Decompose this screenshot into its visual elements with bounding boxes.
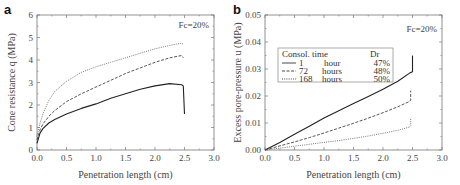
y-tick-label: 0.05	[245, 10, 261, 20]
series-line	[37, 43, 183, 136]
x-tick-label: 2.5	[179, 153, 191, 163]
panel-label: a	[4, 2, 12, 17]
x-tick-label: 2.0	[377, 153, 389, 163]
y-tick-label: 5	[29, 33, 34, 43]
series-line	[37, 84, 185, 144]
x-tick-label: 0.0	[259, 153, 271, 163]
x-tick-label: 1.5	[120, 153, 132, 163]
x-tick-label: 0.5	[289, 153, 301, 163]
x-tick-label: 1.0	[318, 153, 330, 163]
fines-content-annotation: Fc=20%	[178, 20, 209, 30]
plot-frame	[265, 15, 442, 150]
legend-time: 168	[299, 74, 313, 84]
chart-panel-a: 0.00.51.01.52.02.53.00123456Penetration …	[4, 2, 220, 181]
fines-content-annotation: Fc=20%	[406, 24, 437, 34]
y-tick-label: 0.02	[245, 91, 261, 101]
x-tick-label: 3.0	[208, 153, 220, 163]
series-line	[37, 56, 183, 140]
x-tick-label: 2.5	[407, 153, 419, 163]
y-axis-title: Excess pore-pressure u (MPa)	[232, 22, 244, 142]
x-tick-label: 2.0	[149, 153, 161, 163]
chart-panel-b: 0.00.51.01.52.02.53.00.000.010.020.030.0…	[232, 2, 448, 181]
plot-frame	[37, 15, 214, 150]
y-tick-label: 1	[29, 123, 34, 133]
legend-dr: 50%	[374, 74, 391, 84]
x-axis-title: Penetration length (cm)	[306, 169, 400, 181]
panel-label: b	[233, 2, 241, 17]
y-axis-title: Cone resistance q (MPa)	[6, 33, 18, 132]
y-tick-label: 0.04	[245, 37, 261, 47]
y-tick-label: 0	[29, 145, 34, 155]
legend: Consol. timeDr1hour47%72hours48%168hours…	[278, 48, 393, 84]
x-axis-title: Penetration length (cm)	[78, 169, 172, 181]
legend-header-time: Consol. time	[282, 49, 328, 59]
y-tick-label: 0.03	[245, 64, 261, 74]
x-tick-label: 0.5	[61, 153, 73, 163]
x-tick-label: 1.0	[90, 153, 102, 163]
y-tick-label: 2	[29, 100, 34, 110]
x-tick-label: 1.5	[348, 153, 360, 163]
x-tick-label: 0.0	[31, 153, 43, 163]
y-tick-label: 0.01	[245, 118, 261, 128]
y-tick-label: 6	[29, 10, 34, 20]
series-line	[265, 118, 411, 150]
x-tick-label: 3.0	[436, 153, 448, 163]
figure: 0.00.51.01.52.02.53.00123456Penetration …	[0, 0, 460, 185]
y-tick-label: 3	[29, 78, 34, 88]
y-tick-label: 4	[29, 55, 34, 65]
y-tick-label: 0.00	[245, 145, 261, 155]
legend-unit: hours	[322, 74, 342, 84]
